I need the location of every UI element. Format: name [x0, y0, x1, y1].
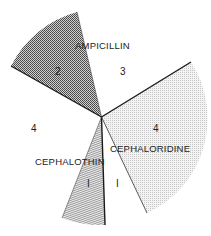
label-cephalothin: CEPHALOTHIN [35, 157, 105, 167]
pie-chart [0, 0, 211, 236]
value-cephaloridine: 4 [153, 124, 159, 134]
label-ampicillin: AMPICILLIN [75, 41, 130, 51]
sector-ampicillin [11, 12, 102, 117]
value-cephalothin: I [87, 179, 90, 189]
value-bottom-mid: I [116, 179, 119, 189]
value-ampicillin: 2 [55, 67, 61, 77]
value-top-right: 3 [120, 67, 126, 77]
label-cephaloridine: CEPHALORIDINE [110, 144, 190, 154]
value-left: 4 [31, 124, 37, 134]
sector-cephalothin [62, 117, 105, 225]
